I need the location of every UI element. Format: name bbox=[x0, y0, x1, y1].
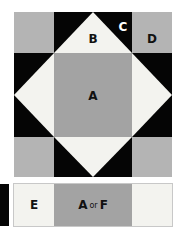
label-e: E bbox=[30, 198, 38, 212]
black-strip-piece bbox=[0, 184, 9, 226]
strip-cell-blank bbox=[132, 184, 172, 226]
sashing-strip: E A or F bbox=[14, 184, 172, 226]
label-d: D bbox=[147, 32, 157, 46]
label-c: C bbox=[119, 20, 128, 34]
quilt-block-diagram: B C D A bbox=[14, 12, 172, 177]
label-a: A bbox=[88, 89, 98, 103]
label-f: F bbox=[100, 198, 108, 212]
corner-square-bottom-left bbox=[14, 137, 54, 177]
strip-cell-a-or-f: A or F bbox=[54, 184, 132, 226]
corner-square-top-left bbox=[14, 12, 54, 53]
label-or: or bbox=[89, 201, 97, 210]
quilt-block-shapes: B C D A bbox=[14, 12, 172, 177]
strip-cell-e: E bbox=[14, 184, 54, 226]
label-b: B bbox=[88, 32, 97, 46]
corner-square-bottom-right bbox=[132, 137, 172, 177]
label-a-strip: A bbox=[78, 198, 87, 212]
